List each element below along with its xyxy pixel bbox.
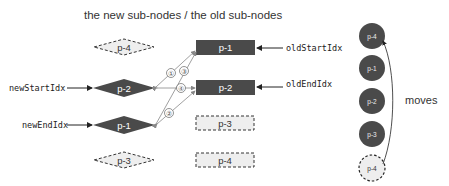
svg-text:newEndIdx: newEndIdx xyxy=(22,120,68,130)
diagram-canvas: the new sub-nodes / the old sub-nodes p-… xyxy=(0,0,449,186)
dom-node-p1: p-1 xyxy=(359,55,385,81)
new-node-p2: p-2 xyxy=(93,79,155,97)
svg-text:p-4: p-4 xyxy=(218,155,232,166)
svg-text:p-4: p-4 xyxy=(367,165,377,173)
comparison-arrow-2: ② xyxy=(157,91,195,124)
dom-node-p4-ghost: p-4 xyxy=(359,155,385,181)
svg-text:p-3: p-3 xyxy=(367,131,377,139)
new-node-p4-ghost: p-4 xyxy=(94,39,154,55)
new-node-p3-ghost: p-3 xyxy=(94,152,154,168)
svg-text:oldStartIdx: oldStartIdx xyxy=(286,43,342,53)
moves-label: moves xyxy=(405,94,438,106)
svg-text:p-1: p-1 xyxy=(367,65,377,73)
svg-text:③: ③ xyxy=(181,68,187,75)
new-node-p1: p-1 xyxy=(93,116,155,134)
dom-node-p3: p-3 xyxy=(359,121,385,147)
old-node-p3-ghost: p-3 xyxy=(196,116,254,130)
diagram-title: the new sub-nodes / the old sub-nodes xyxy=(84,9,282,21)
pointer-old-start: oldStartIdx xyxy=(257,43,342,53)
comparison-arrow-4: ④ xyxy=(157,84,195,93)
svg-text:p-2: p-2 xyxy=(117,83,131,94)
dom-node-p2: p-2 xyxy=(359,88,385,114)
svg-text:④: ④ xyxy=(178,85,184,92)
svg-text:p-3: p-3 xyxy=(218,118,232,129)
svg-text:oldEndIdx: oldEndIdx xyxy=(286,79,332,89)
svg-text:newStartIdx: newStartIdx xyxy=(9,83,65,93)
svg-text:①: ① xyxy=(168,70,174,77)
comparison-arrow-1: ① xyxy=(156,51,195,87)
old-node-p4-ghost: p-4 xyxy=(196,153,254,167)
pointer-new-start: newStartIdx xyxy=(9,83,92,93)
old-node-p1: p-1 xyxy=(196,40,255,55)
svg-text:p-4: p-4 xyxy=(117,42,131,53)
svg-text:p-1: p-1 xyxy=(117,120,131,131)
svg-text:p-4: p-4 xyxy=(367,33,377,41)
svg-text:p-2: p-2 xyxy=(219,82,233,93)
svg-text:p-2: p-2 xyxy=(367,98,377,106)
svg-text:p-1: p-1 xyxy=(219,42,233,53)
old-node-p2: p-2 xyxy=(196,80,255,95)
pointer-old-end: oldEndIdx xyxy=(257,79,332,89)
dom-node-p4: p-4 xyxy=(359,23,385,49)
svg-text:②: ② xyxy=(166,110,172,117)
pointer-new-end: newEndIdx xyxy=(22,120,92,130)
svg-text:p-3: p-3 xyxy=(117,155,131,166)
